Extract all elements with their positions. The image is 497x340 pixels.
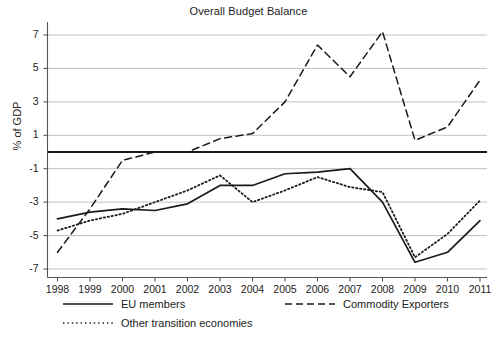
- legend-label-other-transition-economies: Other transition economies: [121, 317, 252, 329]
- legend-item-commodity-exporters: Commodity Exporters: [284, 298, 449, 310]
- data-series-group: [58, 32, 481, 263]
- x-tick-label: 1999: [73, 283, 107, 295]
- legend-item-other-transition-economies: Other transition economies: [62, 317, 252, 329]
- legend-item-eu-members: EU members: [62, 298, 185, 310]
- x-tick-label: 2002: [171, 283, 205, 295]
- x-tick-label: 2006: [301, 283, 335, 295]
- chart-legend: EU members Commodity Exporters Other tra…: [0, 296, 497, 340]
- legend-swatch-solid: [62, 298, 114, 310]
- x-tick-label: 2003: [203, 283, 237, 295]
- x-tick-label: 2004: [236, 283, 270, 295]
- y-tick-label: 7: [17, 28, 39, 40]
- x-tick-label: 2001: [138, 283, 172, 295]
- axis-ticks: [44, 35, 481, 282]
- y-tick-label: -7: [17, 262, 39, 274]
- series-line-commodity-exporters: [58, 32, 481, 253]
- y-tick-label: 1: [17, 128, 39, 140]
- legend-swatch-dotted: [62, 317, 114, 329]
- legend-swatch-dashed: [284, 298, 336, 310]
- axes: [48, 22, 488, 278]
- x-tick-label: 2007: [333, 283, 367, 295]
- legend-label-commodity-exporters: Commodity Exporters: [343, 298, 449, 310]
- x-tick-label: 2010: [431, 283, 465, 295]
- x-tick-label: 2011: [463, 283, 497, 295]
- x-tick-label: 2000: [106, 283, 140, 295]
- series-line-eu-members: [58, 169, 481, 263]
- y-tick-label: -1: [17, 162, 39, 174]
- legend-label-eu-members: EU members: [121, 298, 185, 310]
- series-line-other-transition-economies: [58, 175, 481, 257]
- chart-figure: Overall Budget Balance % of GDP 7531-1-3…: [0, 0, 497, 340]
- y-tick-label: 3: [17, 95, 39, 107]
- plot-area: 7531-1-3-5-7 199819992000200120022003200…: [0, 0, 497, 340]
- y-tick-label: -5: [17, 229, 39, 241]
- y-tick-label: 5: [17, 61, 39, 73]
- x-tick-label: 2005: [268, 283, 302, 295]
- x-tick-label: 2008: [366, 283, 400, 295]
- y-tick-label: -3: [17, 195, 39, 207]
- x-tick-label: 1998: [41, 283, 75, 295]
- x-tick-label: 2009: [398, 283, 432, 295]
